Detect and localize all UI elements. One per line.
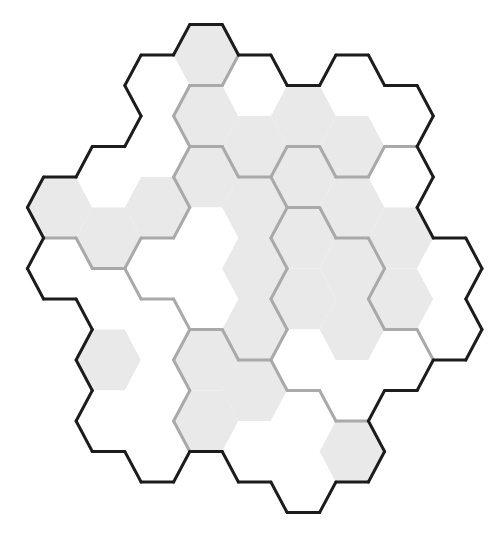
hex-puzzle-board [0, 0, 500, 539]
